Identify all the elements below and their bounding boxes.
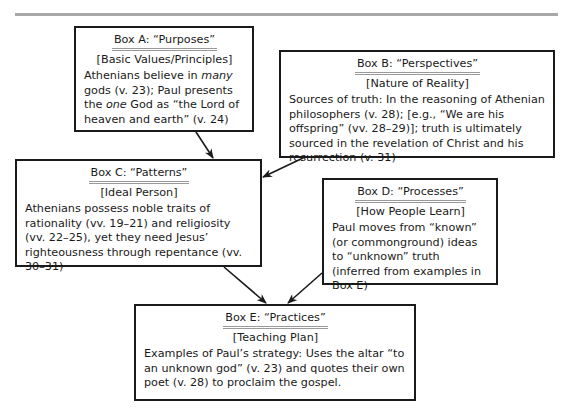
box-d-body: Paul moves from “known” (or commonground… [332,221,489,293]
box-c-subtitle: [Ideal Person] [25,186,253,200]
box-a-purposes: Box A: “Purposes” [Basic Values/Principl… [74,26,254,132]
box-c-title: Box C: “Patterns” [25,166,253,184]
arrow-a-to-c [196,132,213,158]
box-b-perspectives: Box B: “Perspectives” [Nature of Reality… [279,50,555,158]
box-e-body: Examples of Paul’s strategy: Uses the al… [144,347,407,390]
box-d-subtitle: [How People Learn] [332,205,489,219]
box-a-subtitle: [Basic Values/Principles] [84,53,245,67]
box-b-body: Sources of truth: In the reasoning of At… [289,93,546,165]
box-e-title: Box E: “Practices” [144,311,407,329]
box-b-subtitle: [Nature of Reality] [289,77,546,91]
top-divider-rule [15,13,558,16]
box-d-processes: Box D: “Processes” [How People Learn] Pa… [322,178,498,285]
arrow-d-to-e [288,273,322,303]
box-d-title: Box D: “Processes” [332,185,489,203]
box-c-body: Athenians possess noble traits of ration… [25,202,253,274]
box-e-subtitle: [Teaching Plan] [144,331,407,345]
box-a-body: Athenians believe in many gods (v. 23); … [84,69,245,127]
box-a-title: Box A: “Purposes” [84,33,245,51]
box-e-practices: Box E: “Practices” [Teaching Plan] Examp… [134,304,416,401]
box-c-patterns: Box C: “Patterns” [Ideal Person] Athenia… [15,159,262,267]
box-b-title: Box B: “Perspectives” [289,57,546,75]
